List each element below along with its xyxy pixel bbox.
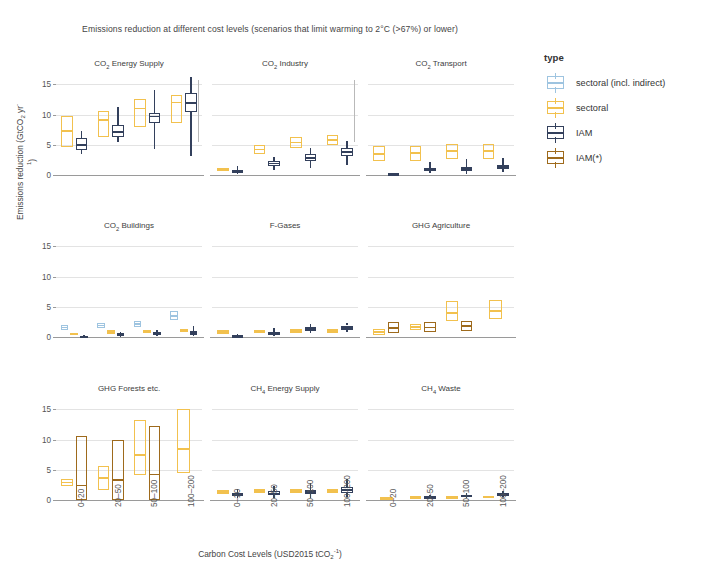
boxplot-iam[interactable]	[212, 239, 358, 337]
legend-label-sectoral: sectoral	[576, 103, 608, 113]
boxplot-iam[interactable]	[212, 77, 358, 175]
whisker-upper	[502, 158, 503, 165]
boxplot-sectoral[interactable]	[368, 402, 514, 500]
boxplot-iam-star[interactable]	[368, 239, 514, 337]
boxplot-sectoral[interactable]	[212, 239, 358, 337]
y-axis-title-a: Emissions reduction (GtCO	[15, 119, 25, 220]
boxplot-sectoral[interactable]	[56, 77, 202, 175]
boxplot-iam[interactable]	[56, 77, 202, 175]
boxplot-iam-star[interactable]	[368, 239, 514, 337]
legend-item-sectoral[interactable]: sectoral	[544, 97, 696, 119]
boxplot-iam[interactable]	[56, 77, 202, 175]
boxplot-sectoral[interactable]	[212, 402, 358, 500]
median-line	[70, 333, 78, 335]
boxplot-sectoral[interactable]	[56, 402, 202, 500]
gridline-15	[56, 84, 202, 85]
y-tick-label-15: 15	[42, 405, 51, 414]
boxplot-iam[interactable]	[56, 77, 202, 175]
boxplot-iam[interactable]	[56, 239, 202, 337]
boxplot-iam[interactable]	[212, 239, 358, 337]
boxplot-sectoral[interactable]	[368, 402, 514, 500]
boxplot-sectoral[interactable]	[368, 239, 514, 337]
boxplot-sectoral[interactable]	[56, 77, 202, 175]
boxplot-sectoral[interactable]	[368, 239, 514, 337]
boxplot-sectoral[interactable]	[56, 239, 202, 337]
plot-area: 0–2020–5050–100100–200	[212, 402, 358, 500]
boxplot-sectoral[interactable]	[368, 402, 514, 500]
boxplot-sectoral[interactable]	[368, 239, 514, 337]
y-tick-mark-5	[53, 145, 56, 146]
boxplot-sectoral[interactable]	[56, 239, 202, 337]
boxplot-iam[interactable]	[368, 402, 514, 500]
median-line	[117, 334, 125, 336]
boxplot-iam[interactable]	[56, 239, 202, 337]
legend-item-iam[interactable]: IAM	[544, 122, 696, 144]
boxplot-sectoral[interactable]	[56, 77, 202, 175]
median-line	[424, 169, 436, 171]
boxplot-iam[interactable]	[212, 77, 358, 175]
boxplot-iam[interactable]	[212, 77, 358, 175]
boxplot-sectoral[interactable]	[212, 77, 358, 175]
boxplot-iam[interactable]	[212, 402, 358, 500]
boxplot-sectoral[interactable]	[368, 77, 514, 175]
boxplot-iam-star[interactable]	[56, 402, 202, 500]
boxplot-sectoral[interactable]	[368, 239, 514, 337]
boxplot-sectoral[interactable]	[212, 239, 358, 337]
boxplot-sectoral[interactable]	[56, 402, 202, 500]
boxplot-sectoral[interactable]	[212, 77, 358, 175]
boxplot-sectoral[interactable]	[212, 77, 358, 175]
boxplot-iam[interactable]	[212, 402, 358, 500]
boxplot-iam[interactable]	[212, 239, 358, 337]
gridline-10	[368, 440, 514, 441]
legend-item-iam-star[interactable]: IAM(*)	[544, 147, 696, 169]
boxplot-iam-star[interactable]	[56, 402, 202, 500]
boxplot-sectoral[interactable]	[56, 402, 202, 500]
boxplot-sectoral[interactable]	[368, 402, 514, 500]
whisker-lower	[346, 330, 347, 332]
x-axis-title: Carbon Cost Levels (USD2015 tCO2-1)	[0, 548, 540, 560]
boxplot-iam[interactable]	[368, 77, 514, 175]
boxplot-iam-star[interactable]	[368, 239, 514, 337]
y-tick-mark-15	[53, 246, 56, 247]
boxplot-iam[interactable]	[368, 402, 514, 500]
median-line	[446, 150, 458, 152]
boxplot-iam[interactable]	[56, 77, 202, 175]
boxplot-iam[interactable]	[212, 402, 358, 500]
boxplot-sectoral[interactable]	[56, 239, 202, 337]
boxplot-sectoral-indirect[interactable]	[56, 239, 202, 337]
boxplot-iam[interactable]	[368, 77, 514, 175]
median-line	[327, 490, 339, 492]
box	[446, 496, 458, 499]
boxplot-sectoral-indirect[interactable]	[56, 239, 202, 337]
boxplot-sectoral[interactable]	[56, 402, 202, 500]
boxplot-iam[interactable]	[212, 77, 358, 175]
x-tick-label-1: 20–50	[426, 484, 435, 507]
box	[461, 321, 473, 331]
boxplot-iam[interactable]	[212, 239, 358, 337]
boxplot-sectoral[interactable]	[212, 402, 358, 500]
boxplot-sectoral-indirect[interactable]	[56, 239, 202, 337]
boxplot-sectoral[interactable]	[56, 77, 202, 175]
boxplot-iam[interactable]	[368, 402, 514, 500]
boxplot-sectoral[interactable]	[212, 239, 358, 337]
whisker-upper	[466, 159, 467, 166]
median-line	[373, 331, 385, 333]
y-tick-label-10: 10	[42, 110, 51, 119]
boxplot-iam[interactable]	[212, 402, 358, 500]
boxplot-iam[interactable]	[368, 77, 514, 175]
boxplot-sectoral[interactable]	[212, 402, 358, 500]
boxplot-sectoral-indirect[interactable]	[56, 239, 202, 337]
boxplot-iam[interactable]	[368, 77, 514, 175]
boxplot-sectoral[interactable]	[368, 77, 514, 175]
boxplot-sectoral[interactable]	[56, 239, 202, 337]
legend-item-sectoral-indirect[interactable]: sectoral (incl. indirect)	[544, 72, 696, 94]
boxplot-iam-star[interactable]	[56, 402, 202, 500]
boxplot-sectoral[interactable]	[368, 77, 514, 175]
boxplot-iam[interactable]	[56, 239, 202, 337]
boxplot-iam[interactable]	[56, 239, 202, 337]
boxplot-sectoral[interactable]	[212, 77, 358, 175]
x-tick-label-3: 100–200	[343, 475, 352, 507]
boxplot-sectoral[interactable]	[212, 239, 358, 337]
boxplot-sectoral[interactable]	[212, 402, 358, 500]
boxplot-sectoral[interactable]	[368, 77, 514, 175]
